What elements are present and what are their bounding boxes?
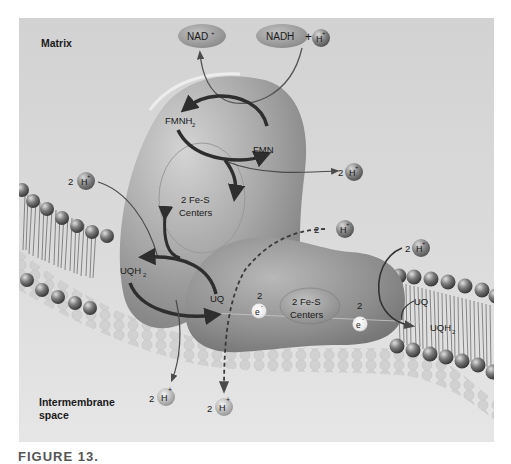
svg-text:2: 2 bbox=[405, 243, 410, 254]
svg-text:2: 2 bbox=[338, 167, 343, 178]
matrix-label: Matrix bbox=[41, 37, 72, 49]
upper-fes-line2: Centers bbox=[179, 207, 213, 218]
intermembrane-label-line2: space bbox=[39, 409, 69, 421]
matrix-proton-top: H + bbox=[312, 29, 330, 47]
lower-fes-line1: 2 Fe-S bbox=[292, 296, 321, 307]
svg-text:2: 2 bbox=[257, 290, 262, 301]
svg-text:UQH: UQH bbox=[430, 322, 451, 333]
uq-right-label: UQ bbox=[414, 296, 428, 307]
figure-caption: FIGURE 13. bbox=[18, 449, 99, 464]
svg-text:H: H bbox=[161, 393, 168, 403]
svg-text:2: 2 bbox=[68, 176, 73, 187]
nadh-molecule: NADH bbox=[256, 24, 308, 48]
svg-text:e: e bbox=[356, 320, 361, 330]
svg-text:+: + bbox=[422, 240, 426, 246]
svg-text:UQH: UQH bbox=[120, 265, 141, 276]
upper-fes-line1: 2 Fe-S bbox=[181, 194, 210, 205]
svg-text:H: H bbox=[219, 403, 226, 413]
svg-text:2: 2 bbox=[314, 224, 319, 235]
uq-left-label: UQ bbox=[210, 293, 224, 304]
fmn-label: FMN bbox=[253, 144, 274, 155]
svg-text:+: + bbox=[87, 173, 91, 179]
svg-text:+: + bbox=[355, 164, 359, 170]
svg-text:2: 2 bbox=[357, 300, 362, 311]
svg-text:FMNH: FMNH bbox=[165, 115, 193, 126]
svg-text:2: 2 bbox=[207, 403, 212, 414]
nad-plus-molecule: NAD + bbox=[178, 24, 226, 48]
svg-text:NAD: NAD bbox=[187, 31, 208, 42]
lower-fes-line2: Centers bbox=[290, 309, 324, 320]
svg-text:e: e bbox=[255, 307, 260, 317]
svg-text:+: + bbox=[226, 396, 230, 403]
svg-text:2: 2 bbox=[149, 393, 154, 404]
svg-text:+: + bbox=[168, 386, 172, 393]
svg-text:+: + bbox=[346, 221, 350, 227]
svg-text:NADH: NADH bbox=[266, 31, 294, 42]
svg-text:-: - bbox=[261, 303, 263, 309]
intermembrane-label-line1: Intermembrane bbox=[39, 396, 115, 408]
svg-text:-: - bbox=[362, 316, 364, 322]
svg-text:+: + bbox=[322, 30, 326, 36]
plus-sign: + bbox=[305, 30, 312, 44]
svg-text:+: + bbox=[211, 30, 215, 36]
